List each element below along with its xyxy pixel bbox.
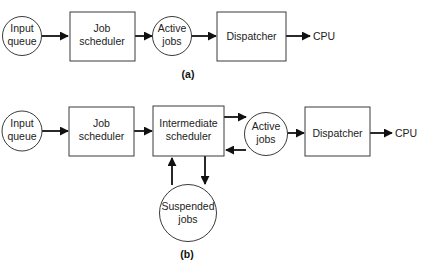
cpu-label: CPU [313, 30, 335, 42]
node-label-line: scheduler [79, 130, 125, 142]
node-label-line: Active [158, 22, 187, 34]
node-a-dispatcher: Dispatcher [217, 12, 286, 61]
node-b-cpu: CPU [395, 127, 417, 139]
node-b-active-jobs: Active jobs [245, 113, 288, 156]
node-label-line: Active [252, 120, 281, 132]
node-b-dispatcher: Dispatcher [305, 107, 370, 156]
node-b-suspended-jobs: Suspended jobs [160, 185, 217, 242]
node-label-line: Input [10, 117, 33, 129]
node-label-line: Dispatcher [226, 30, 277, 42]
node-label-line: queue [7, 35, 36, 47]
caption-a: (a) [182, 68, 195, 80]
caption-b: (b) [180, 248, 193, 260]
node-label-line: jobs [255, 133, 275, 145]
node-a-cpu: CPU [313, 30, 335, 42]
node-label-line: jobs [161, 35, 181, 47]
node-label-line: queue [7, 130, 36, 142]
node-b-input-queue: Input queue [2, 111, 42, 151]
node-label-line: scheduler [166, 130, 212, 142]
node-b-intermediate-scheduler: Intermediate scheduler [153, 106, 224, 156]
node-a-active-jobs: Active jobs [153, 17, 192, 56]
node-label-line: Intermediate [159, 117, 218, 129]
node-label-line: Input [10, 22, 33, 34]
node-b-job-scheduler: Job scheduler [69, 107, 134, 156]
node-label-line: scheduler [79, 35, 125, 47]
node-label-line: Job [94, 22, 111, 34]
diagram-b: Input queue Job scheduler Intermediate s… [2, 106, 417, 260]
node-label-line: Suspended [161, 200, 214, 212]
node-a-job-scheduler: Job scheduler [70, 12, 135, 61]
node-label-line: jobs [177, 213, 197, 225]
node-label-line: Job [93, 117, 110, 129]
node-a-input-queue: Input queue [3, 17, 42, 56]
diagram-a: Input queue Job scheduler Active jobs Di… [3, 12, 336, 80]
node-label-line: Dispatcher [312, 127, 363, 139]
scheduler-diagram: Input queue Job scheduler Active jobs Di… [0, 0, 421, 264]
cpu-label: CPU [395, 127, 417, 139]
